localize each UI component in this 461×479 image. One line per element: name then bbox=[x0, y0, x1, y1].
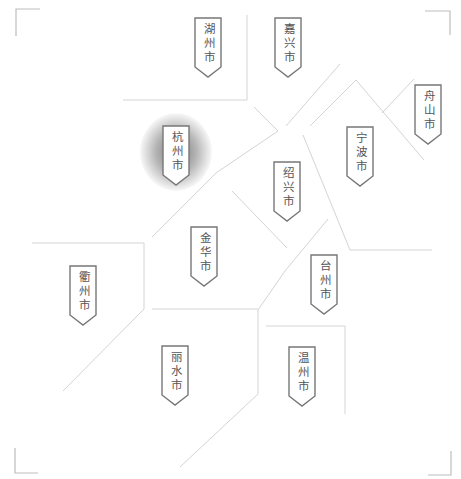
city-name: 金华市 bbox=[190, 232, 218, 280]
city-name: 台州市 bbox=[310, 260, 338, 308]
region-boundaries bbox=[32, 15, 432, 467]
city-name: 宁波市 bbox=[346, 132, 374, 180]
city-label-taizhou[interactable]: 台州市 bbox=[310, 254, 338, 314]
city-label-huzhou[interactable]: 湖州市 bbox=[194, 17, 222, 77]
zhejiang-map bbox=[0, 0, 461, 479]
city-label-jiaxing[interactable]: 嘉兴市 bbox=[274, 17, 302, 77]
city-label-zhoushan[interactable]: 舟山市 bbox=[414, 84, 442, 144]
city-label-hangzhou[interactable]: 杭州市 bbox=[162, 125, 190, 185]
city-label-jinhua[interactable]: 金华市 bbox=[190, 226, 218, 286]
city-label-wenzhou[interactable]: 温州市 bbox=[288, 346, 316, 406]
city-name: 绍兴市 bbox=[273, 167, 301, 215]
city-name: 丽水市 bbox=[161, 351, 189, 399]
city-name: 舟山市 bbox=[414, 90, 442, 138]
city-name: 衢州市 bbox=[69, 271, 97, 319]
frame-corners bbox=[15, 9, 451, 475]
city-name: 湖州市 bbox=[194, 23, 222, 71]
city-label-ningbo[interactable]: 宁波市 bbox=[346, 126, 374, 186]
city-name: 杭州市 bbox=[162, 131, 190, 179]
city-label-shaoxing[interactable]: 绍兴市 bbox=[273, 161, 301, 221]
city-label-lishui[interactable]: 丽水市 bbox=[161, 345, 189, 405]
city-name: 温州市 bbox=[288, 352, 316, 400]
city-name: 嘉兴市 bbox=[274, 23, 302, 71]
city-label-quzhou[interactable]: 衢州市 bbox=[69, 265, 97, 325]
